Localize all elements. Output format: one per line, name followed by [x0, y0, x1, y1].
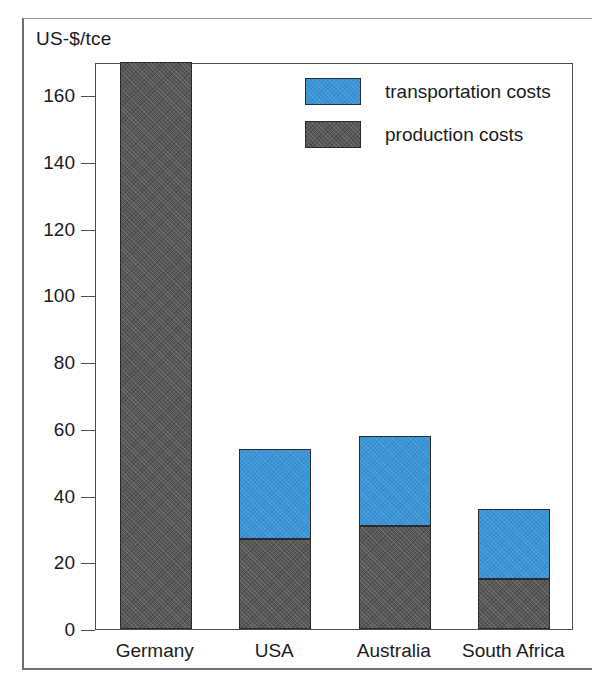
bar-segment-transportation-costs — [359, 436, 431, 526]
legend-item-transportation-costs: transportation costs — [305, 78, 551, 105]
bar-segment-transportation-costs — [478, 509, 550, 579]
figure-border-bottom — [22, 668, 592, 670]
x-axis-label-australia: Australia — [357, 640, 431, 662]
y-axis-tick-label-100: 100 — [13, 285, 75, 307]
y-axis-tick-140 — [81, 163, 95, 164]
y-axis-tick-label-20: 20 — [13, 552, 75, 574]
legend-item-production-costs: production costs — [305, 121, 551, 148]
y-axis-tick-label-160: 160 — [13, 85, 75, 107]
y-axis-tick-label-40: 40 — [13, 486, 75, 508]
y-axis-tick-label-120: 120 — [13, 219, 75, 241]
legend-label-production-costs: production costs — [385, 124, 523, 146]
legend-label-transportation-costs: transportation costs — [385, 81, 551, 103]
y-axis-tick-20 — [81, 563, 95, 564]
y-axis-tick-label-140: 140 — [13, 152, 75, 174]
y-axis-tick-40 — [81, 497, 95, 498]
legend-swatch-production-costs — [305, 121, 361, 148]
bar-segment-production-costs — [359, 526, 431, 629]
chart-figure: US-$/tce 020406080100120140160 GermanyUS… — [0, 0, 603, 690]
bar-segment-production-costs — [478, 579, 550, 629]
bar-group — [239, 62, 311, 629]
y-axis-tick-120 — [81, 230, 95, 231]
x-axis-label-germany: Germany — [116, 640, 194, 662]
y-axis-tick-label-80: 80 — [13, 352, 75, 374]
legend-swatch-transportation-costs — [305, 78, 361, 105]
x-axis-label-usa: USA — [255, 640, 294, 662]
y-axis-tick-label-60: 60 — [13, 419, 75, 441]
y-axis-tick-0 — [81, 630, 95, 631]
y-axis-unit-label: US-$/tce — [36, 28, 112, 50]
bar-group — [120, 62, 192, 629]
y-axis-tick-60 — [81, 430, 95, 431]
bar-segment-transportation-costs — [239, 449, 311, 539]
chart-legend: transportation costs production costs — [305, 78, 551, 164]
bar-segment-production-costs — [120, 62, 192, 629]
y-axis-tick-160 — [81, 96, 95, 97]
y-axis-tick-100 — [81, 296, 95, 297]
x-axis-label-south-africa: South Africa — [462, 640, 564, 662]
y-axis-tick-80 — [81, 363, 95, 364]
bar-segment-production-costs — [239, 539, 311, 629]
y-axis-tick-label-0: 0 — [13, 619, 75, 641]
